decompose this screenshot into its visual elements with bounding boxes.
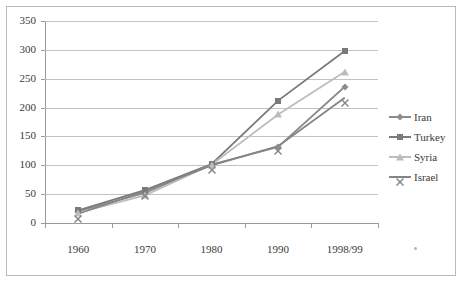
y-axis-label: 250	[0, 73, 36, 84]
x-tick	[245, 223, 246, 228]
legend-label: Israel	[414, 171, 438, 183]
x-tick	[311, 223, 312, 228]
legend-marker-cross-icon	[396, 173, 405, 182]
legend-swatch-triangle-icon	[389, 151, 411, 162]
legend-item-syria[interactable]: Syria	[389, 148, 455, 165]
legend-label: Syria	[414, 151, 437, 163]
x-axis-label: 1960	[67, 243, 89, 255]
y-axis-label: 150	[0, 130, 36, 141]
series-line-israel	[78, 98, 344, 214]
legend-item-iran[interactable]: Iran	[389, 108, 455, 125]
legend-label: Iran	[414, 111, 432, 123]
stray-dot-artifact	[414, 247, 417, 250]
x-tick	[45, 223, 46, 228]
x-tick	[378, 223, 379, 228]
series-line-iran	[78, 87, 344, 212]
legend-label: Turkey	[414, 131, 445, 143]
y-axis-label: 100	[0, 159, 36, 170]
legend-swatch-square-icon	[389, 131, 411, 142]
gridline-0	[45, 223, 378, 224]
y-axis-label: 50	[0, 188, 36, 199]
plot-area	[45, 21, 378, 223]
legend-marker-diamond-icon	[396, 113, 403, 120]
series-line-turkey	[78, 51, 344, 210]
x-axis-label: 1980	[201, 243, 223, 255]
x-tick	[178, 223, 179, 228]
chart-legend: IranTurkeySyriaIsrael	[389, 108, 455, 188]
y-axis-label: 300	[0, 44, 36, 55]
legend-marker-triangle-icon	[396, 154, 404, 161]
data-point-syria-1990	[274, 111, 282, 118]
y-axis-label: 200	[0, 102, 36, 113]
x-axis-label: 1970	[134, 243, 156, 255]
data-point-israel-1998/99	[340, 93, 349, 102]
y-axis-label: 350	[0, 15, 36, 26]
legend-swatch-diamond-icon	[389, 111, 411, 122]
legend-swatch-cross-icon	[389, 171, 411, 182]
series-lines	[45, 21, 378, 223]
data-point-israel-1970	[140, 187, 149, 196]
legend-item-israel[interactable]: Israel	[389, 168, 455, 185]
data-point-turkey-1990	[275, 98, 281, 104]
data-point-turkey-1998/99	[342, 48, 348, 54]
x-axis-label: 1990	[267, 243, 289, 255]
data-point-israel-1990	[274, 142, 283, 151]
data-point-israel-1980	[207, 161, 216, 170]
y-axis-label: 0	[0, 217, 36, 228]
x-tick	[112, 223, 113, 228]
legend-item-turkey[interactable]: Turkey	[389, 128, 455, 145]
x-axis-label: 1998/99	[327, 243, 363, 255]
legend-marker-square-icon	[397, 134, 403, 140]
series-line-syria	[78, 72, 344, 213]
data-point-syria-1998/99	[341, 68, 349, 75]
data-point-israel-1960	[74, 209, 83, 218]
chart-container: 050100150200250300350 196019701980199019…	[0, 0, 463, 284]
